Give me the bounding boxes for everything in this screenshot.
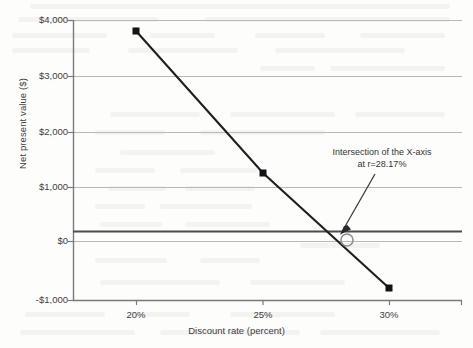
irr-annotation-line2: at r=28.17% (306, 158, 458, 170)
y-tick-label: $0 (6, 235, 68, 246)
x-tick-label: 30% (359, 309, 419, 320)
irr-intersection-marker (341, 234, 353, 246)
irr-annotation: Intersection of the X-axis at r=28.17% (306, 146, 458, 170)
y-tick-label: $3,000 (6, 70, 68, 81)
annotation-arrow (340, 174, 375, 235)
x-tick-label: 25% (233, 309, 293, 320)
y-tick-label: -$1,000 (6, 294, 68, 305)
x-axis-title: Discount rate (percent) (0, 325, 473, 336)
y-tick-label: $4,000 (6, 14, 68, 25)
irr-annotation-line1: Intersection of the X-axis (306, 146, 458, 158)
y-axis-ticks (68, 21, 73, 301)
y-axis-tick-labels: $4,000 $3,000 $2,000 $1,000 $0 -$1,000 (0, 0, 68, 348)
x-tick-label: 20% (106, 309, 166, 320)
npv-vs-discount-rate-chart (0, 0, 473, 348)
chart-page: Net present value ($) $4,000 $3,000 $2,0… (0, 0, 473, 348)
gridlines (73, 21, 462, 242)
y-tick-label: $2,000 (6, 126, 68, 137)
y-tick-label: $1,000 (6, 181, 68, 192)
